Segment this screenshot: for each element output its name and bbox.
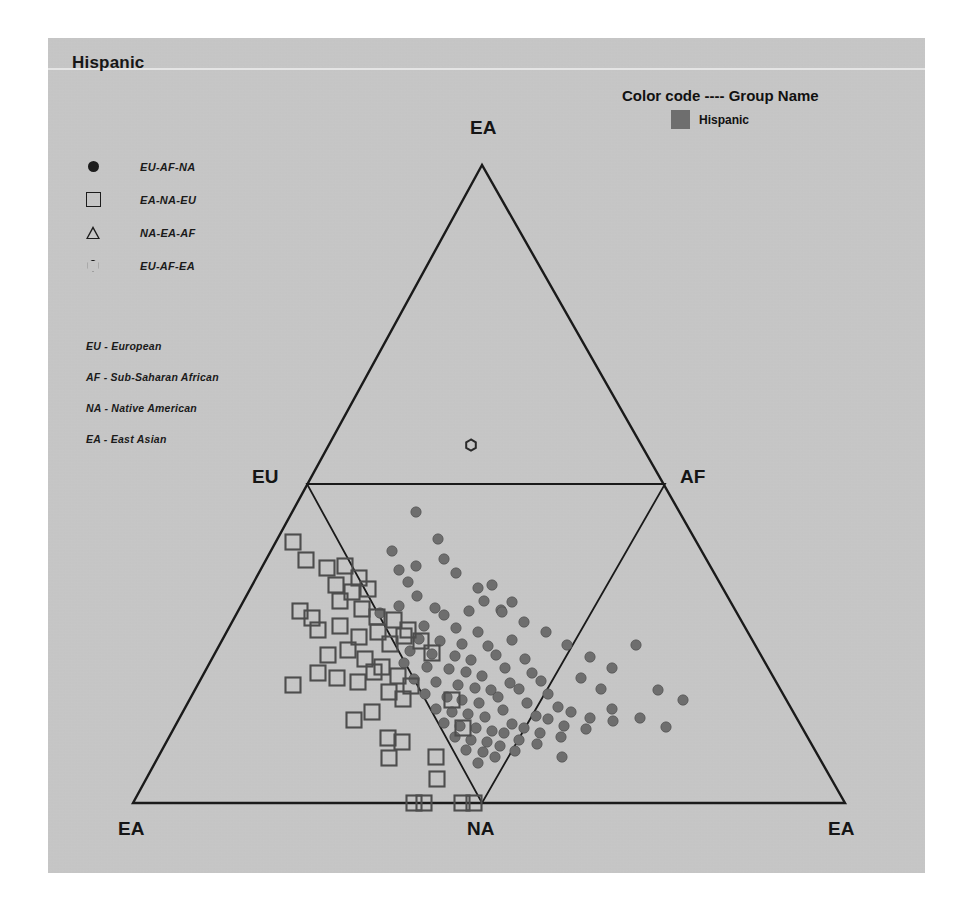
data-point-filled-circle — [430, 603, 440, 613]
data-point-filled-circle — [439, 610, 449, 620]
data-point-filled-circle — [480, 712, 490, 722]
vertex-label-eu: EU — [252, 466, 278, 488]
data-point-filled-circle — [457, 695, 467, 705]
data-point-filled-circle — [553, 702, 563, 712]
vertex-label-apex-ea: EA — [470, 117, 496, 139]
data-point-open-square — [429, 750, 444, 765]
data-point-filled-circle — [653, 685, 663, 695]
data-point-filled-circle — [427, 649, 437, 659]
data-point-filled-circle — [535, 728, 545, 738]
data-point-filled-circle — [387, 546, 397, 556]
data-point-filled-circle — [522, 698, 532, 708]
data-point-filled-circle — [499, 728, 509, 738]
data-point-filled-circle — [531, 711, 541, 721]
data-point-filled-circle — [543, 689, 553, 699]
data-point-filled-circle — [471, 723, 481, 733]
data-point-filled-circle — [399, 658, 409, 668]
data-point-filled-circle — [431, 704, 441, 714]
data-point-filled-circle — [507, 635, 517, 645]
data-point-filled-circle — [412, 591, 422, 601]
data-point-filled-circle — [514, 735, 524, 745]
data-point-filled-circle — [419, 621, 429, 631]
data-point-open-square — [329, 578, 344, 593]
data-point-filled-circle — [433, 534, 443, 544]
data-point-filled-circle — [514, 684, 524, 694]
data-point-filled-circle — [451, 568, 461, 578]
data-point-filled-circle — [403, 577, 413, 587]
data-point-filled-circle — [477, 671, 487, 681]
data-point-open-square — [430, 772, 445, 787]
data-point-filled-circle — [585, 713, 595, 723]
data-point-filled-circle — [451, 623, 461, 633]
data-point-open-square — [286, 678, 301, 693]
data-point-open-square — [333, 619, 348, 634]
data-point-filled-circle — [473, 758, 483, 768]
data-point-filled-circle — [478, 747, 488, 757]
data-point-filled-circle — [631, 640, 641, 650]
data-point-filled-circle — [394, 601, 404, 611]
data-point-open-square — [387, 613, 402, 628]
data-point-open-square — [330, 671, 345, 686]
data-point-open-square — [395, 735, 410, 750]
data-point-filled-circle — [483, 641, 493, 651]
data-point-filled-circle — [487, 726, 497, 736]
data-point-filled-circle — [527, 668, 537, 678]
data-point-filled-circle — [519, 617, 529, 627]
data-point-filled-circle — [473, 627, 483, 637]
data-point-open-square — [321, 648, 336, 663]
data-point-filled-circle — [464, 606, 474, 616]
data-point-filled-circle — [678, 695, 688, 705]
data-point-filled-circle — [500, 663, 510, 673]
data-point-filled-circle — [479, 596, 489, 606]
data-point-filled-circle — [482, 737, 492, 747]
data-point-filled-circle — [411, 561, 421, 571]
data-point-open-square — [365, 705, 380, 720]
data-point-filled-circle — [541, 627, 551, 637]
data-point-filled-circle — [420, 689, 430, 699]
data-point-filled-circle — [450, 651, 460, 661]
data-point-filled-circle — [487, 580, 497, 590]
data-point-open-square — [381, 731, 396, 746]
data-point-filled-circle — [490, 752, 500, 762]
data-point-filled-circle — [466, 655, 476, 665]
data-points-layer — [286, 440, 689, 811]
vertex-label-bottom-right-ea: EA — [828, 818, 854, 840]
data-point-filled-circle — [470, 683, 480, 693]
data-point-open-square — [351, 675, 366, 690]
data-point-filled-circle — [473, 583, 483, 593]
data-point-filled-circle — [491, 650, 501, 660]
data-point-filled-circle — [562, 640, 572, 650]
data-point-filled-circle — [556, 732, 566, 742]
data-point-filled-circle — [557, 752, 567, 762]
data-point-open-square — [338, 559, 353, 574]
data-point-filled-circle — [461, 745, 471, 755]
data-point-filled-circle — [585, 652, 595, 662]
data-point-filled-circle — [520, 654, 530, 664]
data-point-open-square — [347, 713, 362, 728]
data-point-filled-circle — [607, 704, 617, 714]
vertex-label-bottom-left-ea: EA — [118, 818, 144, 840]
data-point-open-square — [299, 553, 314, 568]
data-point-open-hexagon — [466, 440, 476, 451]
data-point-filled-circle — [457, 639, 467, 649]
data-point-filled-circle — [661, 722, 671, 732]
data-point-filled-circle — [635, 713, 645, 723]
data-point-open-square — [355, 602, 370, 617]
data-point-filled-circle — [596, 684, 606, 694]
data-point-filled-circle — [536, 676, 546, 686]
data-point-filled-circle — [519, 723, 529, 733]
data-point-open-square — [311, 666, 326, 681]
data-point-filled-circle — [461, 667, 471, 677]
data-point-filled-circle — [411, 507, 421, 517]
data-point-open-square — [382, 751, 397, 766]
data-point-filled-circle — [608, 716, 618, 726]
data-point-filled-circle — [532, 739, 542, 749]
data-point-filled-circle — [543, 714, 553, 724]
data-point-filled-circle — [439, 718, 449, 728]
data-point-filled-circle — [581, 724, 591, 734]
data-point-open-square — [286, 535, 301, 550]
data-point-filled-circle — [576, 673, 586, 683]
data-point-filled-circle — [607, 663, 617, 673]
data-point-filled-circle — [453, 680, 463, 690]
data-point-filled-circle — [474, 698, 484, 708]
